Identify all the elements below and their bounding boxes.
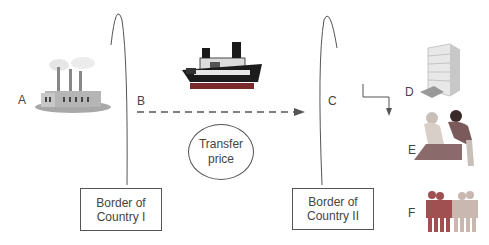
node-c-label: C [328,94,337,108]
border-1-arc [111,14,127,185]
people-group-icon [424,190,480,235]
border-2-line2: Country II [293,209,373,223]
border-1-line2: Country I [81,210,161,224]
factory-icon [33,55,113,115]
node-a-label: A [18,93,26,107]
distribution-arrow-head-icon [386,108,392,116]
transfer-price-oval: Transfer price [188,124,254,180]
ship-icon [180,40,270,95]
border-country-1-box: Border of Country I [80,188,162,231]
border-1-line1: Border of [81,196,161,210]
border-2-line1: Border of [293,195,373,209]
transfer-price-line1: Transfer [189,137,253,152]
office-building-icon [420,42,460,100]
arrow-head-icon [294,108,305,116]
border-country-2-box: Border of Country II [292,188,374,230]
node-d-label: D [405,85,414,99]
people-working-icon [414,110,484,168]
distribution-arrow [363,84,389,110]
node-f-label: F [408,206,415,220]
node-b-label: B [137,94,145,108]
transfer-price-line2: price [189,152,253,167]
